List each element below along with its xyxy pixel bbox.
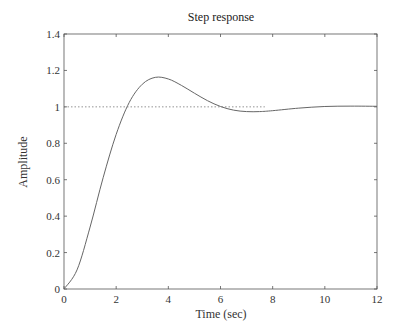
y-tick-label: 0.2	[46, 247, 60, 259]
axes-box	[64, 34, 377, 289]
plot-frame	[64, 34, 377, 289]
y-axis-label: Amplitude	[16, 136, 30, 187]
y-tick-label: 1	[55, 101, 61, 113]
x-tick-label: 4	[166, 293, 172, 305]
axis-ticks: 02468101200.20.40.60.811.21.4	[46, 28, 382, 305]
x-axis-label: Time (sec)	[195, 307, 246, 321]
x-tick-label: 12	[372, 293, 383, 305]
x-tick-label: 10	[319, 293, 331, 305]
y-tick-label: 1.4	[46, 28, 60, 40]
response-curve	[64, 77, 377, 289]
x-tick-label: 0	[61, 293, 67, 305]
chart-title: Step response	[188, 10, 254, 24]
y-tick-label: 0.8	[46, 137, 60, 149]
x-tick-label: 2	[113, 293, 119, 305]
x-tick-label: 8	[270, 293, 276, 305]
y-tick-label: 0.4	[46, 210, 60, 222]
y-tick-label: 1.2	[46, 64, 60, 76]
step-response-chart: 02468101200.20.40.60.811.21.4 Step respo…	[0, 0, 403, 333]
y-tick-label: 0.6	[46, 174, 60, 186]
x-tick-label: 6	[218, 293, 224, 305]
plot-curves	[64, 77, 377, 289]
y-tick-label: 0	[55, 283, 61, 295]
